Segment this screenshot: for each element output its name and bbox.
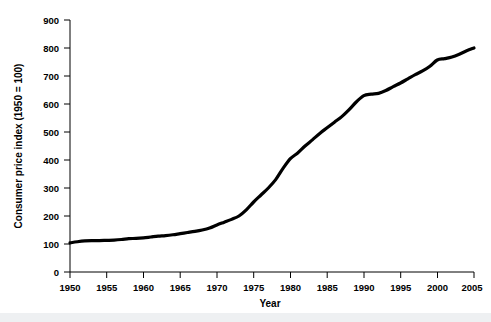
y-tick-label: 300 [43,183,59,194]
y-tick-label: 700 [43,71,59,82]
x-tick-label: 2000 [427,282,448,293]
chart-figure: 900 800 700 600 500 400 300 200 100 0 [0,0,491,322]
y-tick-label: 500 [43,127,59,138]
plot-background [0,0,491,313]
x-axis-title: Year [259,298,280,309]
x-tick-label: 2005 [461,282,483,293]
y-tick-label: 200 [43,211,59,222]
bottom-strip [0,313,491,322]
y-tick-label: 900 [43,15,59,26]
x-tick-label: 1960 [133,282,154,293]
y-tick-label: 400 [43,155,59,166]
x-tick-label: 1955 [96,282,118,293]
y-tick-label: 100 [43,239,59,250]
consumer-price-index-line-chart: 900 800 700 600 500 400 300 200 100 0 [0,0,491,322]
x-tick-label: 1970 [206,282,227,293]
x-tick-label: 1980 [280,282,301,293]
y-tick-label: 0 [54,267,59,278]
x-tick-label: 1995 [390,282,412,293]
y-tick-label: 600 [43,99,59,110]
x-tick-label: 1975 [243,282,265,293]
x-tick-label: 1965 [170,282,192,293]
x-tick-label: 1990 [353,282,374,293]
x-tick-label: 1950 [59,282,80,293]
y-axis-title: Consumer price index (1950 = 100) [13,64,24,229]
y-tick-label: 800 [43,43,59,54]
x-tick-label: 1985 [317,282,339,293]
